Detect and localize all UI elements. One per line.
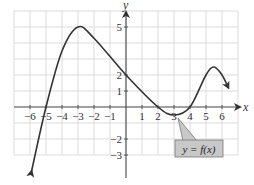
svg-text:1: 1 <box>139 110 145 122</box>
function-graph: −6−5−4−3−2−1123456521−2−3 y = f(x) x y <box>0 0 254 185</box>
svg-text:1: 1 <box>117 85 123 97</box>
svg-text:−4: −4 <box>56 110 68 122</box>
svg-text:2: 2 <box>155 110 161 122</box>
svg-text:5: 5 <box>117 21 123 33</box>
svg-text:6: 6 <box>219 110 225 122</box>
y-axis-label: y <box>122 0 129 12</box>
svg-text:−3: −3 <box>72 110 84 122</box>
svg-text:−5: −5 <box>40 110 52 122</box>
svg-text:−2: −2 <box>110 133 122 145</box>
svg-text:4: 4 <box>187 110 193 122</box>
callout-label: y = f(x) <box>181 143 215 156</box>
svg-text:5: 5 <box>203 110 209 122</box>
svg-text:3: 3 <box>171 110 177 122</box>
function-label-callout: y = f(x) <box>175 118 223 157</box>
x-axis-label: x <box>242 100 249 114</box>
svg-text:−1: −1 <box>104 110 116 122</box>
svg-text:−2: −2 <box>88 110 100 122</box>
svg-text:−3: −3 <box>110 149 122 161</box>
svg-text:−6: −6 <box>24 110 36 122</box>
